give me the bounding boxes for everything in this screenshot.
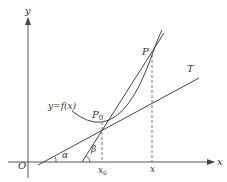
- beta-arc: [86, 156, 90, 162]
- x-axis-label: x: [217, 156, 223, 167]
- function-curve: [72, 30, 162, 122]
- beta-label: β: [90, 144, 96, 154]
- alpha-label: α: [62, 150, 68, 160]
- point-p-label: P: [141, 46, 149, 57]
- tangent-label: T: [187, 63, 195, 74]
- alpha-arc: [55, 157, 56, 162]
- derivative-diagram: y x O y=f(x) T P0 P α β x0 x: [0, 0, 227, 182]
- curve-label: y=f(x): [47, 101, 77, 111]
- point-p0-label: P0: [91, 109, 103, 122]
- y-axis-label: y: [24, 5, 31, 16]
- figure-caption: [0, 170, 227, 182]
